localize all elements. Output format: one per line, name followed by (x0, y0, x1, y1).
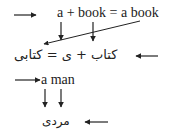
english-phrase-a-book: a + book = a book (57, 6, 159, 20)
arrow-layer (0, 0, 173, 134)
persian-word-mardi: مردی (42, 115, 70, 127)
english-phrase-a-man: a man (41, 73, 75, 87)
persian-phrase-ketabi: کتاب + ی = کتابی (14, 48, 117, 61)
a-book-diagonal-arrow-icon (44, 21, 140, 44)
diagram: a + book = a book کتاب + ی = کتابی a man… (0, 0, 173, 134)
